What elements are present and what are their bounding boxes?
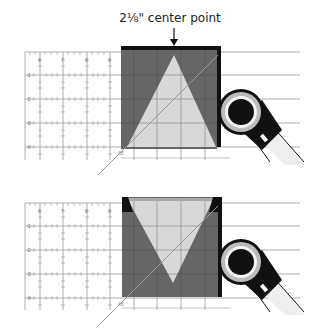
- top-panel: 6 7 8 9 1 2 3 4 45: [25, 46, 305, 175]
- ruler-label: 7: [61, 208, 64, 214]
- ruler-label: 3: [28, 120, 31, 126]
- ruler-label: 1: [28, 223, 31, 229]
- rotary-cutter-icon: [218, 89, 305, 165]
- ruler-label: 4: [28, 295, 31, 301]
- angle-label: 45: [118, 301, 124, 307]
- ruler-label: 8: [85, 57, 88, 63]
- ruler-label: 6: [38, 57, 41, 63]
- diagram-canvas: 6 7 8 9 1 2 3 4 45: [0, 0, 326, 332]
- ruler-label: 2: [28, 96, 31, 102]
- ruler-label: 7: [61, 57, 64, 63]
- ruler-label: 6: [38, 208, 41, 214]
- ruler-label: 1: [28, 72, 31, 78]
- ruler-label: 9: [108, 208, 111, 214]
- bottom-panel: 6 7 8 9 1 2 3 4 45: [25, 197, 305, 326]
- ruler-label: 8: [85, 208, 88, 214]
- ruler-label: 3: [28, 271, 31, 277]
- ruler-label: 2: [28, 247, 31, 253]
- ruler-label: 9: [108, 57, 111, 63]
- ruler-label: 4: [28, 144, 31, 150]
- arrow-down-icon: [170, 28, 178, 46]
- angle-label: 45: [118, 150, 124, 156]
